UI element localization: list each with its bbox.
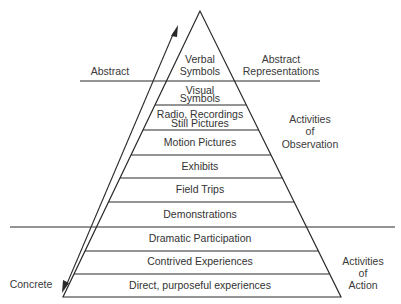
level-label: Demonstrations <box>163 208 237 220</box>
pyramid-level: Direct, purposeful experiences <box>129 279 271 291</box>
pyramid-level: Exhibits <box>182 160 219 172</box>
group-abstract-representations: Abstract Representations <box>243 53 319 77</box>
pyramid-level: Dramatic Participation <box>149 232 252 244</box>
svg-text:Abstract: Abstract <box>262 53 301 65</box>
level-label: Direct, purposeful experiences <box>129 279 271 291</box>
level-label: Symbols <box>180 65 220 77</box>
svg-text:Observation: Observation <box>282 138 339 150</box>
pyramid-level: Field Trips <box>176 183 224 195</box>
level-label: Still Pictures <box>171 117 229 129</box>
level-label: Verbal <box>185 53 215 65</box>
concrete-axis-label: Concrete <box>10 278 53 290</box>
level-label: Exhibits <box>182 160 219 172</box>
svg-text:of: of <box>359 267 368 279</box>
pyramid-level: Radio, RecordingsStill Pictures <box>157 108 243 129</box>
pyramid-level: VerbalSymbols <box>180 53 220 77</box>
pyramid-level: Contrived Experiences <box>147 255 253 267</box>
group-activities-of-action: Activities of Action <box>342 255 383 291</box>
svg-text:Action: Action <box>348 279 377 291</box>
svg-text:Representations: Representations <box>243 65 319 77</box>
pyramid-level: Motion Pictures <box>164 136 236 148</box>
level-label: Dramatic Participation <box>149 232 252 244</box>
svg-text:Activities: Activities <box>342 255 383 267</box>
cone-of-experience-diagram: VerbalSymbolsVisualSymbolsRadio, Recordi… <box>0 0 401 304</box>
pyramid-level: Demonstrations <box>163 208 237 220</box>
level-label: Motion Pictures <box>164 136 236 148</box>
pyramid-level: VisualSymbols <box>180 84 220 104</box>
arrow-head-up-icon <box>171 25 178 37</box>
level-label: Field Trips <box>176 183 224 195</box>
level-label: Symbols <box>180 92 220 104</box>
svg-text:Activities: Activities <box>289 113 330 125</box>
abstract-axis-label: Abstract <box>91 65 130 77</box>
level-label: Contrived Experiences <box>147 255 253 267</box>
group-activities-of-observation: Activities of Observation <box>282 113 339 150</box>
svg-text:of: of <box>306 125 315 137</box>
